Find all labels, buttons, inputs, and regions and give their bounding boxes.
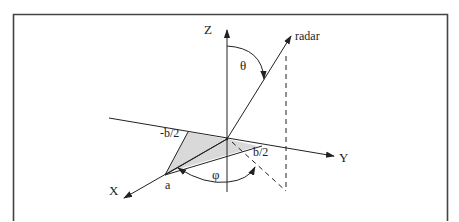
radar-vector [227,36,291,139]
diagram-frame [14,15,448,222]
theta-label: θ [240,58,246,73]
diagram-canvas: Z radar θ -b/2 b/2 Y X a φ [0,0,459,221]
y-axis-label: Y [339,150,349,165]
z-axis-label: Z [204,22,212,37]
x-axis-label: X [109,183,119,198]
a-point-label: a [165,178,171,192]
neg-half-b-label: -b/2 [160,126,179,140]
pos-half-b-label: b/2 [253,145,268,159]
origin-point [226,138,229,141]
radar-label: radar [295,29,320,43]
phi-label: φ [212,167,220,182]
